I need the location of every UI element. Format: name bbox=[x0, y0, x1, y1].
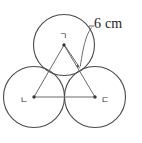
center-dot-top bbox=[62, 43, 65, 46]
center-dot-right bbox=[93, 95, 96, 98]
center-triangle bbox=[34, 45, 95, 97]
geometry-figure: ㄱ ㄴ ㄷ 6 cm bbox=[0, 0, 142, 143]
radius-arrow-line bbox=[65, 46, 78, 66]
dimension-label-6cm: 6 cm bbox=[94, 16, 122, 32]
vertex-label-top: ㄱ bbox=[59, 31, 67, 41]
center-dot-left bbox=[32, 95, 35, 98]
vertex-label-left: ㄴ bbox=[20, 95, 28, 105]
vertex-label-right: ㄷ bbox=[101, 95, 109, 105]
